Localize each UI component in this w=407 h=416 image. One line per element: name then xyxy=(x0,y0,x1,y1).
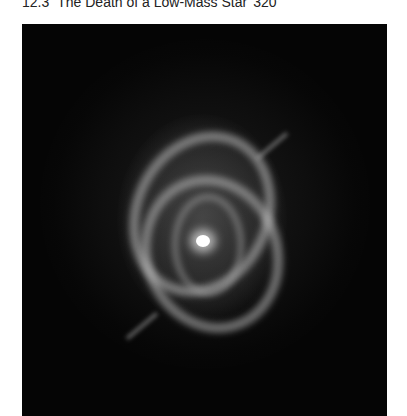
page-number: 320 xyxy=(253,0,276,10)
section-number: 12.3 xyxy=(22,0,49,10)
nebula-image xyxy=(22,24,387,416)
central-star xyxy=(196,235,210,247)
running-header: 12.3The Death of a Low-Mass Star320 xyxy=(22,0,276,10)
section-title: The Death of a Low-Mass Star xyxy=(57,0,247,10)
